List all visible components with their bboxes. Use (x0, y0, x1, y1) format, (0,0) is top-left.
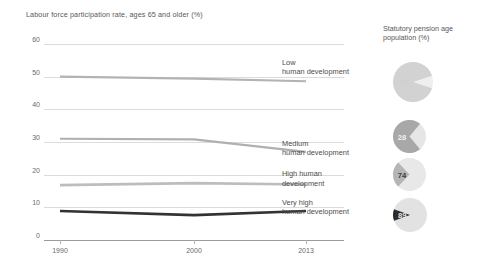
pie-value-label-0: 10 (400, 78, 408, 87)
series-label-0: Lowhuman development (282, 58, 349, 76)
pie-chart-0: 10 (393, 62, 433, 102)
x-tick-label-2013: 2013 (298, 247, 314, 254)
pie-value-label-2: 74 (398, 170, 406, 179)
pie-value-label-3: 89 (398, 211, 406, 220)
series-label-line2-0: human development (282, 67, 349, 76)
side-panel-title-line2: population (%) (383, 33, 478, 42)
series-label-line2-1: human development (282, 148, 349, 157)
series-line-1 (60, 139, 306, 152)
series-label-1: Mediumhuman development (282, 139, 349, 157)
pie-chart-3: 89 (393, 198, 427, 232)
series-label-line2-3: human development (282, 207, 349, 216)
pie-value-label-1: 28 (398, 132, 406, 141)
pie-chart-1: 28 (393, 120, 426, 153)
series-label-line2-2: development (282, 179, 324, 188)
series-label-line1-1: Medium (282, 139, 349, 148)
series-label-3: Very highhuman development (282, 198, 349, 216)
x-tick-label-2000: 2000 (186, 247, 202, 254)
series-line-2 (60, 183, 306, 185)
pie-chart-2: 74 (393, 158, 426, 191)
series-label-2: High humandevelopment (282, 169, 324, 187)
series-line-3 (60, 211, 306, 215)
chart-title: Labour force participation rate, ages 65… (26, 10, 203, 19)
y-tick-label-10: 10 (0, 199, 40, 206)
series-label-line1-0: Low (282, 58, 349, 67)
x-tick-mark-2013 (306, 240, 307, 244)
series-line-0 (60, 77, 306, 82)
side-panel-title-line1: Statutory pension age (383, 24, 478, 33)
series-label-line1-2: High human (282, 169, 324, 178)
x-tick-mark-1990 (60, 240, 61, 244)
side-panel-title: Statutory pension age population (%) (383, 24, 478, 43)
y-tick-label-20: 20 (0, 166, 40, 173)
x-tick-mark-2000 (194, 240, 195, 244)
series-label-line1-3: Very high (282, 198, 349, 207)
y-tick-label-30: 30 (0, 134, 40, 141)
y-tick-label-50: 50 (0, 68, 40, 75)
y-tick-label-40: 40 (0, 101, 40, 108)
figure-root: Labour force participation rate, ages 65… (0, 0, 478, 275)
y-tick-label-0: 0 (0, 232, 40, 239)
y-tick-label-60: 60 (0, 36, 40, 43)
x-tick-label-1990: 1990 (52, 247, 68, 254)
